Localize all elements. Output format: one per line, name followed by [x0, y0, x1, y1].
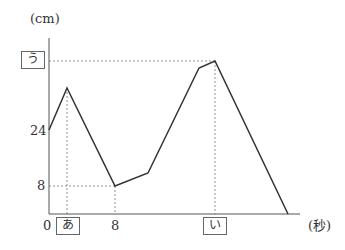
- y-tick-8: 8: [37, 179, 45, 193]
- label-box-i: い: [203, 217, 227, 235]
- data-line: [49, 61, 288, 214]
- guide-lines: [49, 61, 215, 214]
- label-box-a: あ: [56, 217, 80, 235]
- label-box-u: う: [21, 51, 45, 69]
- x-axis-unit: (秒): [308, 219, 331, 233]
- x-tick-8: 8: [111, 219, 119, 233]
- origin-label: 0: [43, 219, 51, 233]
- graph: [0, 0, 345, 250]
- y-tick-24: 24: [30, 124, 47, 138]
- y-axis-unit: (cm): [30, 12, 60, 26]
